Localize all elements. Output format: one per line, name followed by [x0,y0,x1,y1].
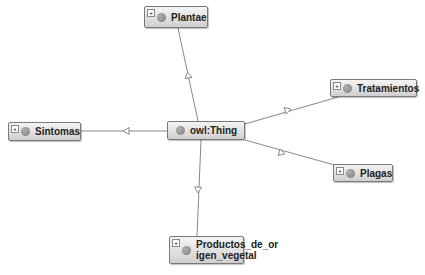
node-plantae[interactable]: + Plantae [144,6,208,28]
node-tratamientos[interactable]: + Tratamientos [330,79,417,97]
node-plagas[interactable]: + Plagas [333,164,393,182]
arrowhead-icon [284,107,291,114]
ontology-graph-canvas[interactable]: owl:Thing + Plantae + Tratamientos + Sin… [0,0,425,275]
expand-icon[interactable]: + [336,167,344,175]
class-icon [21,127,30,136]
node-label: owl:Thing [190,125,237,136]
expand-icon[interactable]: + [147,9,155,17]
arrowhead-icon [185,72,192,79]
expand-icon[interactable]: + [11,125,19,133]
class-icon [346,169,355,178]
node-owl-thing[interactable]: owl:Thing [167,121,245,140]
class-icon [157,13,166,22]
node-label-line1: Productos_de_or [196,239,278,250]
node-label: Plagas [360,168,392,179]
node-productos-de-origen-vegetal[interactable]: + Productos_de_or igen_vegetal [169,236,244,264]
class-icon [343,84,352,93]
edge-plagas [245,140,338,166]
arrowhead-icon [195,187,202,193]
expand-icon[interactable]: + [333,82,341,90]
class-icon [176,126,185,135]
node-label: Tratamientos [357,83,419,94]
node-sintomas[interactable]: + Sintomas [8,122,81,141]
node-label-line2: igen_vegetal [196,250,257,261]
node-label: Productos_de_or igen_vegetal [196,239,278,261]
node-label: Sintomas [35,126,80,137]
edge-tratamientos [245,97,338,124]
class-icon [182,246,191,255]
expand-icon[interactable]: + [172,239,180,247]
arrowhead-icon [123,128,129,135]
node-label: Plantae [171,12,207,23]
